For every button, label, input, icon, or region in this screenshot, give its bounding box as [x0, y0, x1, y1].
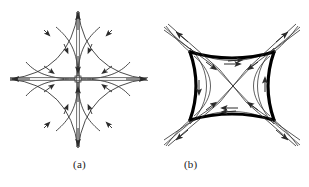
panel-a-star-flow-arrows — [44, 30, 112, 128]
petal-upper-left — [56, 27, 78, 76]
panel-a-caption: (a) — [0, 157, 157, 171]
panel-a-vertical-axis — [77, 12, 80, 147]
thick-edge-left — [190, 52, 196, 120]
panel-a: (a) — [0, 0, 155, 187]
panel-a-center-saddle — [75, 76, 81, 82]
tail-upper-left-2 — [164, 30, 214, 66]
petal-arrow-right-lower — [104, 86, 112, 92]
figure-root: (a) — [0, 0, 309, 187]
thick-edge-right — [268, 52, 274, 120]
panel-b-diagram — [154, 0, 309, 155]
panel-a-inner-petals — [26, 27, 130, 131]
star-edge-bottom-right — [78, 79, 147, 148]
sweep-lower-left-b — [164, 128, 184, 145]
panel-b-thick-separatrix — [190, 52, 274, 120]
star-arrow-top-right — [108, 30, 112, 34]
tail-lower-right-2 — [252, 106, 300, 140]
panel-b: (b) — [154, 0, 309, 187]
petal-arrow-left-upper — [44, 66, 52, 72]
petal-lower-left — [56, 82, 78, 131]
petal-lower-right — [78, 82, 100, 131]
petal-upper-right — [78, 27, 100, 76]
star-edge-top-right — [78, 11, 147, 79]
panel-b-caption: (b) — [154, 157, 309, 171]
petal-arrow-right-upper — [104, 66, 112, 72]
panel-b-center-web — [194, 56, 270, 116]
star-arrow-bottom-right — [108, 124, 112, 128]
panel-a-petal-arrows — [44, 44, 112, 114]
petal-arrow-left-lower — [44, 86, 52, 92]
panel-a-diagram — [0, 0, 155, 155]
sweep-lower-right-b — [280, 128, 300, 145]
star-arrow-top-left — [44, 30, 48, 34]
tail-lower-left-2 — [164, 106, 214, 140]
tail-upper-right-2 — [252, 30, 300, 66]
star-arrow-bottom-left — [44, 124, 48, 128]
star-edge-top-left — [10, 11, 78, 79]
star-edge-bottom-left — [10, 79, 78, 148]
